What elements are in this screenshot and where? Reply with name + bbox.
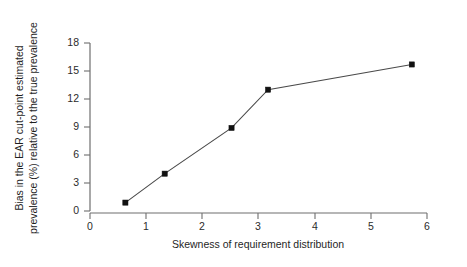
data-series xyxy=(123,62,415,205)
line-chart: Bias in the EAR cut-point estimated prev… xyxy=(0,0,467,267)
x-tick-label-3: 3 xyxy=(255,220,261,232)
y-axis-title-group: Bias in the EAR cut-point estimated prev… xyxy=(13,22,39,234)
y-axis: 0 3 6 9 12 15 18 xyxy=(67,36,90,216)
x-tick-label-5: 5 xyxy=(368,220,374,232)
x-tick-label-2: 2 xyxy=(199,220,205,232)
y-axis-tick-labels: 0 3 6 9 12 15 18 xyxy=(67,36,79,216)
data-point-0 xyxy=(123,200,128,205)
series-line-bias xyxy=(125,64,411,202)
data-point-1 xyxy=(162,171,167,176)
y-tick-label-6: 6 xyxy=(73,148,79,160)
data-point-3 xyxy=(265,87,270,92)
y-tick-label-15: 15 xyxy=(67,64,79,76)
x-tick-label-1: 1 xyxy=(143,220,149,232)
y-tick-label-3: 3 xyxy=(73,176,79,188)
x-axis-tick-labels: 0 1 2 3 4 5 6 xyxy=(87,220,430,232)
x-axis: 0 1 2 3 4 5 6 Skewness of requirement di… xyxy=(87,213,430,250)
y-tick-label-9: 9 xyxy=(73,120,79,132)
y-axis-title-line-1: Bias in the EAR cut-point estimated xyxy=(13,45,25,210)
data-point-2 xyxy=(229,125,234,130)
x-tick-label-4: 4 xyxy=(312,220,318,232)
y-tick-label-12: 12 xyxy=(67,92,79,104)
x-axis-ticks xyxy=(90,213,427,219)
x-tick-label-6: 6 xyxy=(424,220,430,232)
series-markers xyxy=(123,62,415,205)
y-axis-title-line-2: prevalence (%) relative to the true prev… xyxy=(27,22,39,234)
y-tick-label-18: 18 xyxy=(67,36,79,48)
data-point-4 xyxy=(409,62,414,67)
y-axis-ticks xyxy=(84,43,90,211)
x-tick-label-0: 0 xyxy=(87,220,93,232)
x-axis-title: Skewness of requirement distribution xyxy=(172,238,344,250)
y-tick-label-0: 0 xyxy=(73,204,79,216)
chart-figure: Bias in the EAR cut-point estimated prev… xyxy=(0,0,467,267)
